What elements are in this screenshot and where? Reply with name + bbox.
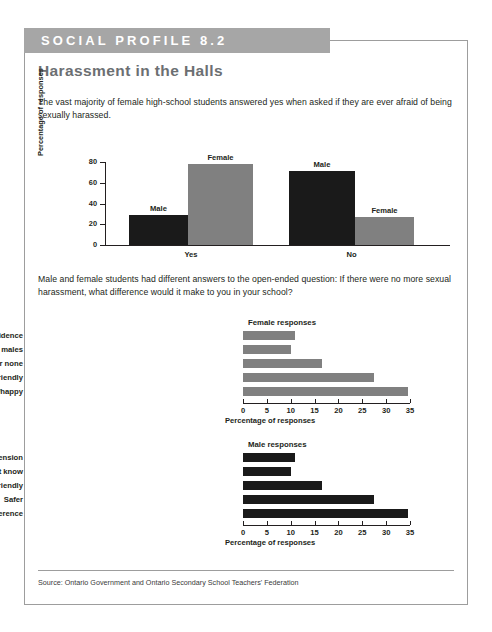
bar-row-label: No difference (0, 509, 23, 518)
x-tick-label: 15 (305, 528, 325, 537)
y-tick-label: 20 (75, 219, 97, 228)
horizontal-bar (243, 345, 291, 354)
second-paragraph: Male and female students had different a… (38, 273, 456, 300)
x-tick (315, 521, 316, 525)
vertical-bar-label: Female (355, 206, 414, 215)
y-tick-label: 60 (75, 178, 97, 187)
source-divider (38, 570, 454, 571)
female-x-axis-line (243, 403, 410, 404)
y-axis-title: Percentage of responses (36, 66, 45, 158)
horizontal-bar (243, 467, 291, 476)
x-tick-label: 10 (281, 528, 301, 537)
x-tick-label: 15 (305, 406, 325, 415)
male-x-axis-line (243, 525, 410, 526)
y-tick (100, 204, 105, 205)
horizontal-bar (243, 509, 408, 518)
social-profile-figure: SOCIAL PROFILE 8.2 Harassment in the Hal… (0, 0, 492, 632)
x-tick-label: 25 (352, 406, 372, 415)
y-tick-label: 40 (75, 199, 97, 208)
x-tick-label: 5 (257, 528, 277, 537)
x-tick (243, 521, 244, 525)
x-group-label: No (289, 250, 414, 259)
y-tick-label: 0 (75, 240, 97, 249)
x-tick-label: 5 (257, 406, 277, 415)
bar-row-label: Safer (0, 495, 23, 504)
x-axis-line (105, 245, 450, 246)
bar-row-label: More self-confidence (0, 331, 23, 340)
bar-row-label: Not much or none (0, 359, 23, 368)
x-tick-label: 20 (328, 406, 348, 415)
vertical-bar-chart: Percentage of responses 020406080 MaleFe… (38, 150, 454, 265)
x-tick (267, 521, 268, 525)
horizontal-bar (243, 387, 408, 396)
female-chart-title: Female responses (248, 318, 316, 327)
horizontal-bar (243, 481, 322, 490)
horizontal-bar (243, 373, 374, 382)
horizontal-bar (243, 359, 322, 368)
x-tick (362, 521, 363, 525)
y-tick-label: 80 (75, 157, 97, 166)
x-tick-label: 10 (281, 406, 301, 415)
bar-row-label: Better school climate, friendly (0, 481, 23, 490)
vertical-bar-label: Female (188, 153, 253, 162)
bar-row-label: Better school climate, friendly (0, 373, 23, 382)
bar-row-label: Don't know (0, 467, 23, 476)
male-responses-chart: Male responses Happy/less tensionDon't k… (38, 440, 454, 544)
horizontal-bar (243, 331, 295, 340)
x-tick (315, 399, 316, 403)
male-x-axis-title: Percentage of responses (225, 538, 315, 547)
y-tick (100, 162, 105, 163)
x-tick-label: 25 (352, 528, 372, 537)
y-tick (100, 224, 105, 225)
vertical-bar (188, 164, 253, 245)
x-tick-label: 35 (400, 528, 420, 537)
bar-row-label: Happy/less tension (0, 453, 23, 462)
horizontal-bar (243, 495, 374, 504)
x-tick (291, 521, 292, 525)
female-responses-chart: Female responses More self-confidenceBet… (38, 318, 454, 422)
y-axis-line (105, 162, 106, 246)
x-tick (267, 399, 268, 403)
x-tick (243, 399, 244, 403)
vertical-bar (355, 217, 414, 245)
vertical-bar (289, 171, 355, 245)
vertical-bar (129, 215, 188, 245)
x-tick (338, 399, 339, 403)
x-tick-label: 30 (376, 406, 396, 415)
page-title: Harassment in the Halls (38, 62, 223, 80)
x-tick-label: 0 (233, 528, 253, 537)
x-tick-label: 20 (328, 528, 348, 537)
x-tick (386, 399, 387, 403)
banner-label: SOCIAL PROFILE 8.2 (41, 33, 227, 48)
vertical-bar-label: Male (129, 204, 188, 213)
source-note: Source: Ontario Government and Ontario S… (38, 578, 299, 587)
intro-paragraph: The vast majority of female high-school … (38, 96, 456, 123)
x-tick (338, 521, 339, 525)
x-group-label: Yes (129, 250, 253, 259)
x-tick-label: 30 (376, 528, 396, 537)
x-tick-label: 35 (400, 406, 420, 415)
x-tick (386, 521, 387, 525)
x-tick (410, 399, 411, 403)
horizontal-bar (243, 453, 295, 462)
vertical-bar-label: Male (289, 160, 355, 169)
female-x-axis-title: Percentage of responses (225, 416, 315, 425)
banner-bar: SOCIAL PROFILE 8.2 (24, 28, 330, 53)
x-tick-label: 0 (233, 406, 253, 415)
x-tick (291, 399, 292, 403)
y-tick (100, 183, 105, 184)
y-tick (100, 245, 105, 246)
x-tick (410, 521, 411, 525)
male-chart-title: Male responses (248, 440, 307, 449)
x-tick (362, 399, 363, 403)
bar-row-label: Better comfort level with males (0, 345, 23, 354)
bar-row-label: Less afraid, more comfortable/happy (0, 387, 23, 396)
